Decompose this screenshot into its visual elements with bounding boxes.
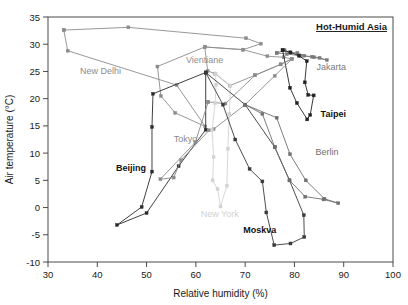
series-new-delhi bbox=[62, 26, 262, 128]
data-point bbox=[275, 116, 278, 119]
x-tick-label-80: 80 bbox=[289, 269, 300, 280]
data-point bbox=[225, 184, 228, 187]
y-tick-label-10: 10 bbox=[29, 148, 40, 159]
x-tick-label-60: 60 bbox=[191, 269, 202, 280]
data-point bbox=[337, 202, 340, 205]
data-point bbox=[306, 118, 309, 121]
data-point bbox=[303, 54, 306, 57]
series-label-new-delhi: New Delhi bbox=[80, 66, 121, 76]
data-point bbox=[234, 138, 237, 141]
data-point bbox=[303, 235, 306, 238]
data-point bbox=[208, 129, 211, 132]
data-point bbox=[273, 146, 276, 149]
data-point bbox=[226, 147, 229, 150]
data-point bbox=[228, 112, 231, 115]
chart-container: 30405060708090100-10-505101520253035 New… bbox=[0, 0, 408, 305]
data-point bbox=[305, 60, 308, 63]
data-point bbox=[309, 114, 312, 117]
data-point bbox=[288, 86, 291, 89]
data-point bbox=[245, 37, 248, 40]
data-point bbox=[244, 103, 247, 106]
data-point bbox=[62, 29, 65, 32]
data-point bbox=[302, 214, 305, 217]
series-line bbox=[64, 27, 261, 126]
y-tick-label-30: 30 bbox=[29, 39, 40, 50]
y-tick-label-35: 35 bbox=[29, 12, 40, 23]
data-point bbox=[174, 111, 177, 114]
data-point bbox=[304, 195, 307, 198]
data-point bbox=[150, 125, 153, 128]
data-point bbox=[259, 42, 262, 45]
data-point bbox=[221, 103, 224, 106]
series-label-vientiane: Vientiane bbox=[186, 55, 223, 65]
data-point bbox=[156, 65, 159, 68]
data-point bbox=[211, 179, 214, 182]
data-point bbox=[214, 72, 217, 75]
data-point bbox=[307, 93, 310, 96]
data-point bbox=[275, 51, 278, 54]
data-point bbox=[261, 112, 264, 115]
data-point bbox=[159, 94, 162, 97]
data-point bbox=[140, 206, 143, 209]
data-point bbox=[242, 48, 245, 51]
data-point bbox=[66, 49, 69, 52]
data-point bbox=[318, 56, 321, 59]
data-point bbox=[216, 188, 219, 191]
data-point bbox=[127, 26, 130, 29]
data-point bbox=[219, 205, 222, 208]
data-point bbox=[211, 129, 214, 132]
x-tick-label-30: 30 bbox=[43, 269, 54, 280]
data-point bbox=[145, 212, 148, 215]
series-label-beijing: Beijing bbox=[116, 163, 146, 173]
x-tick-label-100: 100 bbox=[385, 269, 401, 280]
data-point bbox=[273, 244, 276, 247]
series-label-berlin: Berlin bbox=[316, 147, 339, 157]
data-point bbox=[203, 45, 206, 48]
series-label-tokyo: Tokyo bbox=[174, 134, 198, 144]
data-point bbox=[265, 211, 268, 214]
data-point bbox=[204, 128, 207, 131]
data-point bbox=[215, 84, 218, 87]
data-point bbox=[204, 125, 207, 128]
y-tick-label--5: -5 bbox=[32, 229, 40, 240]
series-tokyo bbox=[159, 57, 294, 180]
data-point bbox=[290, 57, 293, 60]
data-point bbox=[273, 74, 276, 77]
data-point bbox=[266, 55, 269, 58]
y-tick-label-5: 5 bbox=[35, 175, 40, 186]
y-tick-label--10: -10 bbox=[26, 257, 40, 268]
data-point bbox=[295, 102, 298, 105]
data-point bbox=[323, 197, 326, 200]
data-point bbox=[289, 51, 292, 54]
panel-title: Hot-Humid Asia bbox=[316, 21, 388, 32]
data-point bbox=[281, 49, 284, 52]
series-label-jakarta: Jakarta bbox=[317, 62, 347, 72]
series-label-taipei: Taipei bbox=[321, 109, 346, 119]
x-tick-label-90: 90 bbox=[338, 269, 349, 280]
data-point bbox=[116, 223, 119, 226]
data-point bbox=[286, 53, 289, 56]
data-point bbox=[297, 54, 300, 57]
data-point bbox=[151, 92, 154, 95]
data-point bbox=[303, 81, 306, 84]
data-point bbox=[254, 74, 257, 77]
series-taipei bbox=[281, 49, 315, 121]
data-point bbox=[279, 63, 282, 66]
axes-layer: 30405060708090100-10-505101520253035 bbox=[26, 12, 401, 281]
y-tick-label-0: 0 bbox=[35, 202, 40, 213]
series-label-new-york: New York bbox=[201, 209, 240, 219]
series-line bbox=[283, 50, 314, 119]
y-axis-title: Air temperature (°C) bbox=[4, 95, 15, 185]
series-label-moskva: Moskva bbox=[243, 225, 277, 235]
data-point bbox=[214, 102, 217, 105]
data-point bbox=[207, 100, 210, 103]
data-point bbox=[248, 167, 251, 170]
scatter-line-chart: 30405060708090100-10-505101520253035 New… bbox=[0, 0, 408, 305]
y-tick-label-20: 20 bbox=[29, 93, 40, 104]
data-point bbox=[289, 242, 292, 245]
data-point bbox=[150, 170, 153, 173]
y-tick-label-25: 25 bbox=[29, 66, 40, 77]
data-point bbox=[229, 84, 232, 87]
data-point bbox=[159, 178, 162, 181]
x-tick-label-40: 40 bbox=[92, 269, 103, 280]
